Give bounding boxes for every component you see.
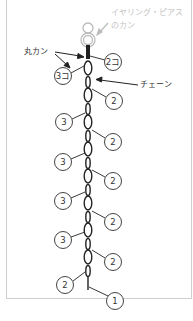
count-text: 2 bbox=[111, 96, 116, 106]
count-text: 2 bbox=[110, 217, 115, 227]
chain-label: チェーン bbox=[140, 81, 172, 89]
leader-lines bbox=[71, 56, 108, 296]
jump-ring-label: 丸カン bbox=[24, 48, 48, 56]
chain-icon bbox=[84, 61, 92, 290]
count-text: 3 bbox=[60, 196, 65, 206]
hook-arrow-icon bbox=[97, 23, 108, 35]
earring-hook-label: イヤリング・ピアス bbox=[111, 9, 183, 17]
earring-hook-icon bbox=[81, 23, 95, 47]
count-text: 3 bbox=[60, 235, 65, 245]
count-text: 3コ bbox=[56, 71, 70, 81]
count-text: 3 bbox=[60, 157, 65, 167]
count-text: 2 bbox=[110, 176, 115, 186]
count-text: 3 bbox=[61, 117, 66, 127]
jump-ring-top-icon bbox=[86, 45, 90, 59]
chain-arrow-icon bbox=[96, 77, 138, 85]
earring-hook-label-line2: のカン bbox=[111, 22, 135, 30]
count-text: 2 bbox=[110, 257, 115, 267]
count-text: 2 bbox=[110, 137, 115, 147]
jump-ring-arrows-icon bbox=[55, 52, 84, 68]
count-text: 1 bbox=[112, 296, 117, 306]
count-text: 2コ bbox=[106, 57, 120, 67]
count-text: 2 bbox=[62, 280, 67, 290]
